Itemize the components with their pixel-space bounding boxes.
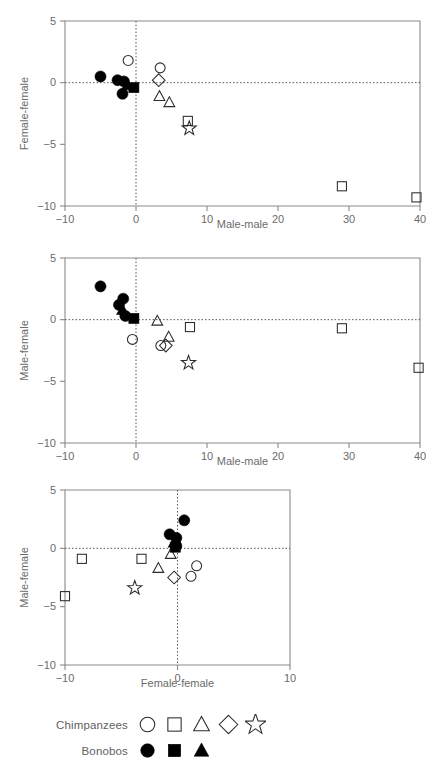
legend-symbol-open-square	[164, 714, 185, 735]
legend-symbols	[137, 740, 212, 761]
data-point-filled-triangle	[194, 743, 209, 756]
data-point-open-circle	[192, 561, 202, 571]
data-point-open-circle	[140, 717, 155, 732]
y-tick-label: 0	[50, 313, 56, 325]
data-point-open-diamond	[168, 571, 181, 584]
data-point-filled-circle	[141, 744, 155, 758]
data-point-open-star	[128, 581, 142, 595]
scatter-panel-female-female-vs-male-male: 50−5−10−10010203040Male-maleFemale-femal…	[0, 0, 443, 240]
data-point-open-circle	[123, 55, 133, 65]
legend-symbol-filled-square	[164, 740, 185, 761]
series-chimpanzees	[123, 55, 421, 201]
y-tick-label: −5	[43, 375, 56, 387]
data-point-filled-circle	[118, 293, 129, 304]
scatter-plot-2: 50−5−10−10010Female-femaleMale-female	[0, 470, 443, 690]
y-axis-title: Female-female	[18, 77, 30, 150]
legend-symbol-open-circle	[137, 714, 158, 735]
y-tick-label: −10	[37, 659, 56, 671]
data-point-open-triangle	[164, 97, 175, 107]
x-tick-label: −10	[56, 213, 75, 225]
x-tick-label: 10	[284, 672, 296, 684]
data-point-open-star	[181, 355, 195, 369]
y-tick-label: −5	[43, 600, 56, 612]
x-tick-label: 20	[272, 213, 284, 225]
data-point-open-circle	[155, 63, 165, 73]
legend-symbol-open-triangle	[191, 714, 212, 735]
data-point-filled-circle	[95, 71, 106, 82]
data-point-filled-square	[129, 313, 139, 323]
legend-symbol-open-diamond	[218, 714, 239, 735]
data-point-open-triangle	[154, 91, 165, 101]
data-point-open-diamond	[152, 74, 165, 87]
data-point-open-triangle	[153, 563, 164, 573]
series-bonobos	[95, 71, 139, 99]
y-axis-title: Male-female	[18, 547, 30, 608]
x-axis-title: Female-female	[141, 677, 214, 689]
series-bonobos	[95, 281, 139, 324]
series-chimpanzees	[127, 315, 423, 372]
y-tick-label: 5	[50, 252, 56, 264]
x-tick-label: 10	[201, 450, 213, 462]
plot-frame	[65, 258, 420, 443]
x-tick-label: −10	[56, 450, 75, 462]
data-point-filled-circle	[95, 281, 106, 292]
data-point-open-square	[168, 718, 181, 731]
scatter-plot-1: 50−5−10−10010203040Male-maleMale-female	[0, 240, 443, 470]
data-point-open-circle	[186, 571, 196, 581]
data-point-open-square	[185, 323, 194, 332]
legend-row-bonobos: Bonobos	[8, 740, 212, 761]
legend-symbols	[137, 714, 266, 735]
x-tick-label: 30	[343, 450, 355, 462]
x-tick-label: 10	[201, 213, 213, 225]
y-tick-label: 0	[50, 76, 56, 88]
data-point-open-circle	[156, 341, 166, 351]
y-tick-label: 0	[50, 542, 56, 554]
data-point-open-square	[337, 324, 346, 333]
x-tick-label: 0	[133, 213, 139, 225]
y-axis-title: Male-female	[18, 320, 30, 381]
data-point-filled-circle	[179, 515, 190, 526]
x-axis-title: Male-male	[217, 218, 268, 230]
y-tick-label: 5	[50, 484, 56, 496]
data-point-open-star	[245, 714, 266, 733]
scatter-plot-0: 50−5−10−10010203040Male-maleFemale-femal…	[0, 0, 443, 240]
data-point-open-star	[182, 121, 196, 135]
series-bonobos	[164, 515, 190, 552]
legend-row-chimpanzees: Chimpanzees	[8, 714, 266, 735]
x-tick-label: 30	[343, 213, 355, 225]
figure-legend: Chimpanzees Bonobos	[0, 694, 443, 782]
y-tick-label: −10	[37, 200, 56, 212]
x-tick-label: 40	[414, 213, 426, 225]
legend-symbol-filled-triangle	[191, 740, 212, 761]
data-point-open-square	[414, 363, 423, 372]
x-tick-label: 40	[414, 450, 426, 462]
data-point-open-diamond	[219, 715, 237, 733]
x-axis-title: Male-male	[217, 455, 268, 467]
x-tick-label: 0	[133, 450, 139, 462]
data-point-open-triangle	[194, 716, 210, 730]
legend-symbol-filled-circle	[137, 740, 158, 761]
data-point-open-square	[337, 182, 346, 191]
legend-symbol-open-star	[245, 714, 266, 735]
scatter-panel-male-female-vs-male-male: 50−5−10−10010203040Male-maleMale-female	[0, 240, 443, 470]
data-point-open-square	[77, 554, 86, 563]
y-tick-label: −5	[43, 138, 56, 150]
x-tick-label: 20	[272, 450, 284, 462]
data-point-open-square	[137, 554, 146, 563]
legend-label: Bonobos	[8, 745, 137, 757]
data-point-filled-square	[168, 744, 180, 756]
y-tick-label: −10	[37, 437, 56, 449]
x-tick-label: −10	[56, 672, 75, 684]
scatter-panel-male-female-vs-female-female: 50−5−10−10010Female-femaleMale-female	[0, 470, 443, 690]
series-chimpanzees	[60, 549, 201, 601]
y-tick-label: 5	[50, 15, 56, 27]
data-point-open-triangle	[152, 315, 163, 325]
plot-frame	[65, 21, 420, 206]
legend-label: Chimpanzees	[8, 719, 137, 731]
